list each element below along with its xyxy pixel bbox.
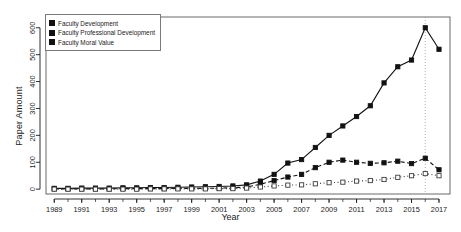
svg-text:400: 400 [28,75,37,87]
legend-swatch-icon [49,30,55,36]
legend-item-faculty-development: Faculty Development [49,19,155,28]
svg-text:600: 600 [28,22,37,34]
legend-swatch-icon [49,39,55,45]
chart-legend: Faculty Development Faculty Professional… [45,14,161,51]
legend-label: Faculty Development [58,20,118,27]
svg-text:500: 500 [28,48,37,60]
svg-text:300: 300 [28,102,37,114]
legend-item-faculty-professional-development: Faculty Professional Development [49,28,155,37]
y-axis-title: Paper Amount [14,71,24,161]
x-axis-title: Year [0,212,461,222]
chart-container: 0100200300400500600 19891991199319951997… [0,0,461,232]
svg-text:100: 100 [28,156,37,168]
legend-label: Faculty Moral Value [58,39,114,46]
svg-text:0: 0 [28,187,37,191]
legend-label: Faculty Professional Development [58,29,155,36]
svg-text:200: 200 [28,129,37,141]
y-axis: 0100200300400500600 [28,22,40,192]
legend-swatch-icon [49,20,55,26]
legend-item-faculty-moral-value: Faculty Moral Value [49,38,155,47]
